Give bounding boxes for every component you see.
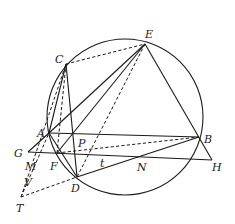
segment-GH (28, 152, 212, 160)
diagram-canvas: ABCDEFGHMNPTVt (0, 0, 235, 224)
label-C: C (55, 53, 64, 66)
label-N: N (136, 161, 147, 174)
segment-CD (66, 64, 77, 177)
geometry-diagram: ABCDEFGHMNPTVt (0, 0, 235, 224)
segment-CA (49, 64, 66, 133)
label-B: B (203, 133, 212, 146)
label-t: t (100, 157, 105, 170)
label-P: P (77, 137, 86, 150)
segment-EF (57, 44, 145, 153)
label-V: V (24, 176, 33, 189)
label-G: G (14, 147, 23, 160)
label-M: M (24, 160, 37, 173)
label-F: F (49, 160, 58, 173)
label-E: E (144, 28, 153, 41)
dashed-lines (21, 44, 199, 197)
label-T: T (16, 202, 25, 215)
label-D: D (70, 182, 80, 195)
label-A: A (36, 127, 45, 140)
segment-CE (66, 44, 145, 64)
label-H: H (211, 161, 222, 174)
point-labels: ABCDEFGHMNPTVt (14, 28, 222, 215)
